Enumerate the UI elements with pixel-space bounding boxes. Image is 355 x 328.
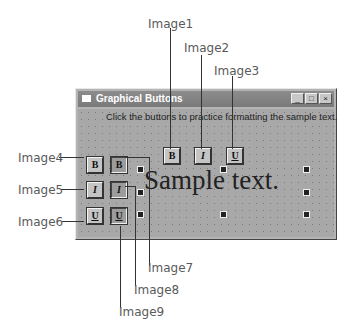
callout-image3: Image3 [214,65,259,77]
image3-underline-button[interactable]: U [227,148,243,164]
image1-bold-button[interactable]: B [164,148,180,164]
selection-handle[interactable] [220,166,227,173]
graphical-buttons-window: Graphical Buttons _ □ × Click the button… [75,88,337,240]
selection-handle[interactable] [137,189,144,196]
selection-handle[interactable] [303,189,310,196]
callout-line-image2 [201,55,202,149]
callout-image4: Image4 [18,152,63,164]
callout-image2: Image2 [184,42,229,54]
instruction-label: Click the buttons to practice formatting… [106,111,337,122]
callout-line-image7-v [149,157,150,266]
callout-line-image3 [232,76,233,149]
callout-image8: Image8 [134,284,179,296]
title-bar[interactable]: Graphical Buttons _ □ × [78,91,334,107]
callout-line-image8-h [125,186,135,187]
image7-bold-pressed-button[interactable]: B [111,157,127,173]
image6-underline-button[interactable]: U [87,208,103,224]
image4-bold-button[interactable]: B [87,157,103,173]
callout-line-image6 [62,221,84,222]
image9-underline-pressed-button[interactable]: U [111,208,127,224]
sample-text-label[interactable]: Sample text. [144,166,279,194]
callout-image6: Image6 [18,216,63,228]
selection-handle[interactable] [303,166,310,173]
callout-line-image5 [61,189,84,190]
form-client-area: Click the buttons to practice formatting… [78,109,334,237]
callout-image1: Image1 [148,18,193,30]
window-icon [82,95,91,102]
image8-italic-pressed-button[interactable]: I [111,182,127,198]
selection-handle[interactable] [303,211,310,218]
maximize-button[interactable]: □ [305,93,318,104]
image3-label: U [231,150,238,161]
close-button[interactable]: × [319,93,332,104]
selection-handle[interactable] [137,166,144,173]
minimize-button[interactable]: _ [291,93,304,104]
callout-line-image9 [120,226,121,308]
callout-line-image8-v [135,186,136,286]
selection-handle[interactable] [137,211,144,218]
image5-italic-button[interactable]: I [87,182,103,198]
selection-handle[interactable] [220,211,227,218]
callout-image5: Image5 [18,184,63,196]
callout-image7: Image7 [148,262,193,274]
callout-image9: Image9 [119,306,164,318]
callout-line-image7-h [125,157,149,158]
image2-italic-button[interactable]: I [195,148,211,164]
callout-line-image1 [170,28,171,149]
